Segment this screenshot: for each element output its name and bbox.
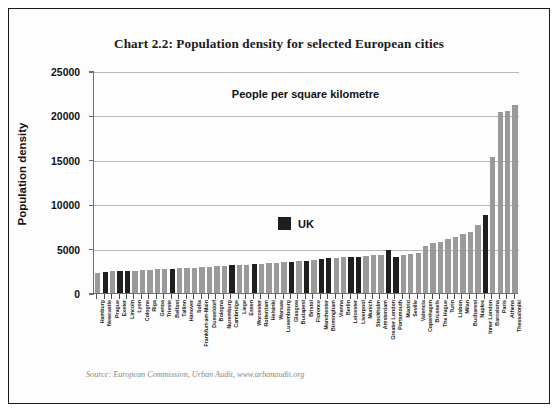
bar-slot xyxy=(340,71,347,293)
x-tick-mark xyxy=(141,294,142,299)
bar xyxy=(483,215,488,293)
bar xyxy=(110,271,115,293)
x-tick-mark xyxy=(245,294,246,299)
bar-slot xyxy=(280,71,287,293)
x-label-slot: Hanover xyxy=(182,300,189,366)
bar xyxy=(147,270,152,293)
x-label-slot: Bucharest xyxy=(466,300,473,366)
x-tick-mark xyxy=(506,294,507,299)
y-tick-label: 0 xyxy=(74,288,80,299)
bar-slot xyxy=(362,71,369,293)
x-label-slot: Vienna xyxy=(332,300,339,366)
chart-subtitle: People per square kilometre xyxy=(93,88,518,100)
bar xyxy=(222,266,227,293)
x-label-slot: Bologna xyxy=(212,300,219,366)
bar-slot xyxy=(459,71,466,293)
bar-slot xyxy=(243,71,250,293)
x-tick-slot xyxy=(346,294,353,299)
bar-slot xyxy=(176,71,183,293)
bar xyxy=(132,271,137,293)
bar xyxy=(266,263,271,293)
x-label-slot: Hamburg xyxy=(93,300,100,366)
bar-slot xyxy=(265,71,272,293)
bar xyxy=(281,262,286,293)
bar-slot xyxy=(273,71,280,293)
bar-slot xyxy=(429,71,436,293)
x-tick-mark xyxy=(424,294,425,299)
bar xyxy=(229,265,234,293)
bar xyxy=(490,157,495,293)
x-tick-mark xyxy=(230,294,231,299)
bar xyxy=(214,266,219,293)
bar-slot xyxy=(206,71,213,293)
x-tick-slot xyxy=(123,294,130,299)
bar xyxy=(498,112,503,293)
x-label-slot: Warsaw xyxy=(272,300,279,366)
bar-slot xyxy=(310,71,317,293)
x-tick-slot xyxy=(168,294,175,299)
x-tick-mark xyxy=(215,294,216,299)
x-tick-mark xyxy=(417,294,418,299)
x-tick-slot xyxy=(108,294,115,299)
bar-slot xyxy=(258,71,265,293)
x-label-slot: Florence xyxy=(309,300,316,366)
bar-slot xyxy=(444,71,451,293)
bar xyxy=(296,261,301,293)
bar-slot xyxy=(154,71,161,293)
x-tick-mark xyxy=(193,294,194,299)
bar xyxy=(259,264,264,293)
x-tick-slot xyxy=(466,294,473,299)
x-tick-mark xyxy=(96,294,97,299)
x-tick-slot xyxy=(481,294,488,299)
bar xyxy=(125,271,130,293)
x-tick-mark xyxy=(320,294,321,299)
x-label-slot: Exeter xyxy=(115,300,122,366)
x-tick-mark xyxy=(387,294,388,299)
bar xyxy=(356,257,361,293)
x-tick-mark xyxy=(119,294,120,299)
x-tick-slot xyxy=(138,294,145,299)
x-tick-slot xyxy=(376,294,383,299)
x-label-slot: Essen xyxy=(242,300,249,366)
bar-slot xyxy=(146,71,153,293)
x-tick-mark xyxy=(350,294,351,299)
y-tick-label: 5000 xyxy=(57,244,80,255)
x-tick-slot xyxy=(272,294,279,299)
bar-slot xyxy=(400,71,407,293)
bar xyxy=(475,225,480,293)
x-label-slot: Riga xyxy=(145,300,152,366)
x-tick-mark xyxy=(402,294,403,299)
bar xyxy=(408,254,413,293)
x-label-slot: Munich xyxy=(361,300,368,366)
x-tick-slot xyxy=(503,294,510,299)
x-tick-slot xyxy=(294,294,301,299)
x-label-slot: Valencia xyxy=(413,300,420,366)
x-label-slot: Newcastle xyxy=(100,300,107,366)
bar-slot xyxy=(392,71,399,293)
x-tick-slot xyxy=(100,294,107,299)
x-tick-mark xyxy=(126,294,127,299)
x-tick-slot xyxy=(413,294,420,299)
x-tick-mark xyxy=(379,294,380,299)
x-tick-mark xyxy=(409,294,410,299)
x-label-slot: Stockholm xyxy=(369,300,376,366)
x-tick-mark xyxy=(305,294,306,299)
bar xyxy=(319,259,324,293)
bar xyxy=(341,257,346,293)
x-tick-mark xyxy=(148,294,149,299)
bar xyxy=(468,232,473,293)
x-label-slot: Helsinki xyxy=(264,300,271,366)
x-label-slot: Portsmouth xyxy=(391,300,398,366)
bar-slot xyxy=(139,71,146,293)
x-label-slot: Manchester xyxy=(317,300,324,366)
x-label-slot: Liverpool xyxy=(354,300,361,366)
x-tick-mark xyxy=(432,294,433,299)
bar-slot xyxy=(116,71,123,293)
x-label-slot: Frankfurt-am-Main xyxy=(197,300,204,366)
x-tick-mark xyxy=(223,294,224,299)
x-tick-slot xyxy=(250,294,257,299)
x-label-slot: Leicester xyxy=(346,300,353,366)
x-tick-mark xyxy=(163,294,164,299)
bar-slot xyxy=(347,71,354,293)
bar xyxy=(401,255,406,293)
